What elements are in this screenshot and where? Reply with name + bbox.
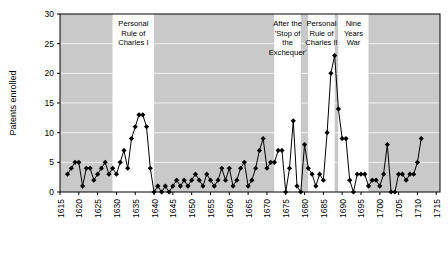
y-tick-label-10: 10 bbox=[45, 128, 55, 138]
band-label-2: Rule of bbox=[309, 29, 334, 38]
y-tick-label-15: 15 bbox=[45, 98, 55, 108]
y-tick-label-20: 20 bbox=[45, 68, 55, 78]
y-axis-title: Patents enrolled bbox=[8, 70, 18, 135]
x-tick-label-1670: 1670 bbox=[262, 199, 272, 218]
y-tick-label-25: 25 bbox=[45, 39, 55, 49]
y-tick-label-5: 5 bbox=[49, 157, 54, 167]
patents-enrolled-line-chart: PersonalRule ofCharles IAfter the'Stop o… bbox=[0, 0, 448, 256]
x-tick-label-1680: 1680 bbox=[300, 199, 310, 218]
x-tick-label-1685: 1685 bbox=[319, 199, 329, 218]
x-tick-label-1615: 1615 bbox=[56, 199, 66, 218]
band-label-1: 'Stop of bbox=[275, 29, 301, 38]
x-tick-label-1620: 1620 bbox=[74, 199, 84, 218]
x-tick-label-1665: 1665 bbox=[244, 199, 254, 218]
x-tick-label-1625: 1625 bbox=[93, 199, 103, 218]
x-tick-label-1640: 1640 bbox=[150, 199, 160, 218]
x-tick-label-1675: 1675 bbox=[281, 199, 291, 218]
band-label-0: Personal bbox=[118, 19, 148, 28]
x-tick-label-1705: 1705 bbox=[394, 199, 404, 218]
band-label-2: Charles II bbox=[305, 38, 338, 47]
band-label-0: Charles I bbox=[118, 38, 148, 47]
x-tick-label-1700: 1700 bbox=[375, 199, 385, 218]
band-label-3: Years bbox=[344, 29, 363, 38]
band-label-0: Rule of bbox=[121, 29, 146, 38]
band-label-3: War bbox=[347, 38, 361, 47]
x-tick-label-1655: 1655 bbox=[206, 199, 216, 218]
band-label-2: Personal bbox=[306, 19, 336, 28]
band-label-1: After the bbox=[273, 19, 302, 28]
x-tick-label-1710: 1710 bbox=[413, 199, 423, 218]
band-label-3: Nine bbox=[346, 19, 362, 28]
chart-figure: PersonalRule ofCharles IAfter the'Stop o… bbox=[0, 0, 448, 256]
x-tick-label-1690: 1690 bbox=[338, 199, 348, 218]
band-label-1: the bbox=[282, 38, 293, 47]
x-tick-label-1650: 1650 bbox=[187, 199, 197, 218]
x-tick-label-1635: 1635 bbox=[131, 199, 141, 218]
x-tick-label-1695: 1695 bbox=[356, 199, 366, 218]
x-tick-label-1645: 1645 bbox=[168, 199, 178, 218]
y-tick-label-0: 0 bbox=[49, 187, 54, 197]
x-tick-label-1660: 1660 bbox=[225, 199, 235, 218]
x-tick-label-1715: 1715 bbox=[432, 199, 442, 218]
band-label-1: Exchequer' bbox=[269, 48, 307, 57]
x-tick-label-1630: 1630 bbox=[112, 199, 122, 218]
y-tick-label-30: 30 bbox=[45, 9, 55, 19]
